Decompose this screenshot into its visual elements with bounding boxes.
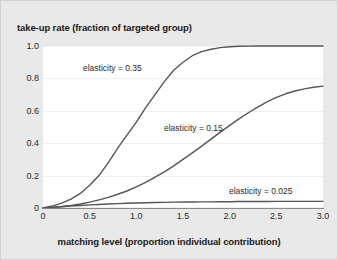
x-axis-title: matching level (proportion individual co…	[1, 236, 337, 247]
y-axis-title: take-up rate (fraction of targeted group…	[17, 22, 192, 33]
x-tick-label: 0.5	[83, 211, 96, 221]
x-tick-label: 1.0	[130, 211, 143, 221]
curve-annotation-0: elasticity = 0.35	[83, 63, 142, 73]
x-tick-label: 1.5	[177, 211, 190, 221]
y-tick-label: 1.0	[5, 41, 39, 51]
x-tick-label: 3.0	[317, 211, 330, 221]
chart-figure: take-up rate (fraction of targeted group…	[0, 0, 338, 260]
y-tick-label: 0.8	[5, 73, 39, 83]
x-axis-line	[43, 208, 324, 209]
curve-annotation-1: elasticity = 0.15	[164, 123, 223, 133]
y-tick-label: 0	[5, 203, 39, 213]
curve-annotation-2: elasticity = 0.025	[229, 186, 293, 196]
x-tick-label: 0	[40, 211, 45, 221]
y-tick-label: 0.2	[5, 171, 39, 181]
y-axis-tick-labels: 00.20.40.60.81.0	[1, 46, 39, 208]
x-tick-label: 2.5	[270, 211, 283, 221]
y-tick-label: 0.6	[5, 106, 39, 116]
y-tick-label: 0.4	[5, 138, 39, 148]
x-axis-tick-labels: 00.51.01.52.02.53.0	[43, 211, 323, 225]
x-tick-label: 2.0	[223, 211, 236, 221]
